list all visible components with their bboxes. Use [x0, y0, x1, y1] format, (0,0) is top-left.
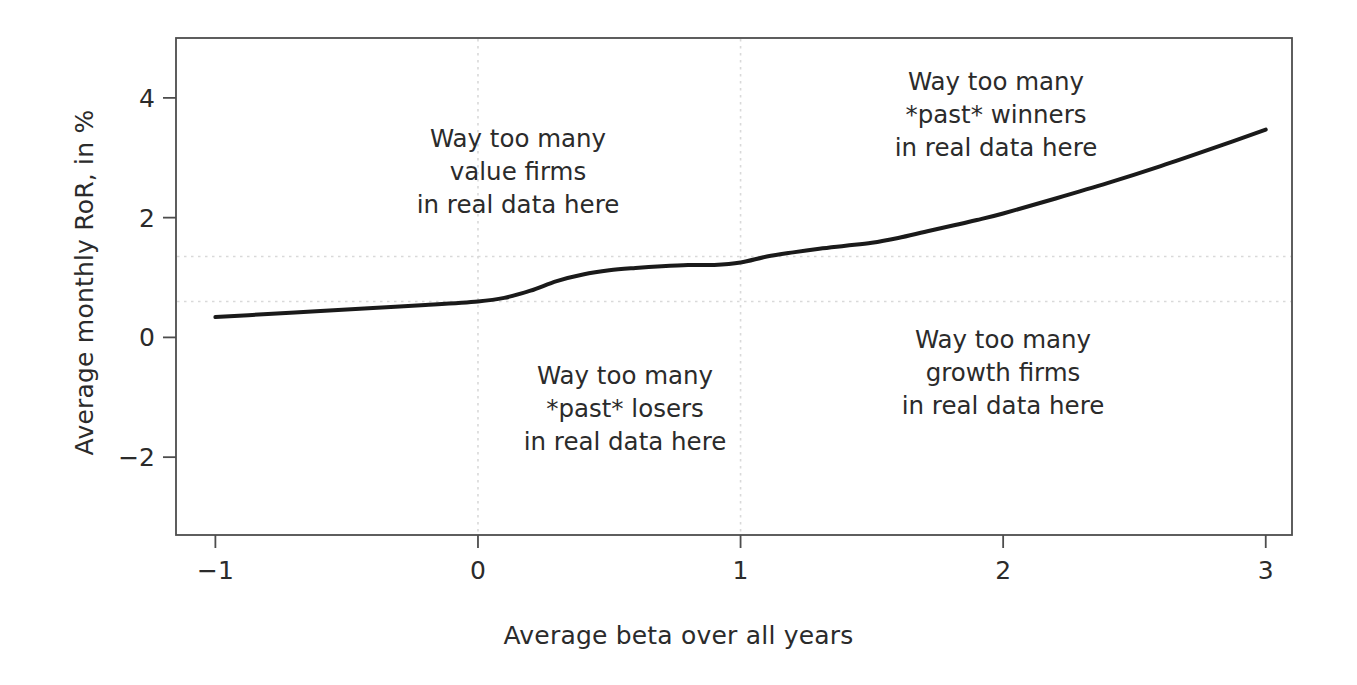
- y-tick-label: 4: [139, 83, 155, 112]
- annotation-value-firms: Way too many value firms in real data he…: [417, 122, 620, 221]
- y-axis-label: Average monthly RoR, in %: [70, 110, 99, 456]
- x-tick-label: −1: [197, 556, 234, 585]
- annotation-past-winners: Way too many *past* winners in real data…: [895, 65, 1098, 164]
- x-tick-label: 0: [470, 556, 486, 585]
- annotation-past-losers: Way too many *past* losers in real data …: [524, 359, 727, 458]
- annotation-line: Way too many: [524, 359, 727, 392]
- x-tick-label: 3: [1258, 556, 1274, 585]
- annotation-growth-firms: Way too many growth firms in real data h…: [902, 323, 1105, 422]
- annotation-line: Way too many: [895, 65, 1098, 98]
- x-tick-label: 1: [733, 556, 749, 585]
- annotation-line: in real data here: [524, 425, 727, 458]
- annotation-line: growth firms: [902, 356, 1105, 389]
- annotation-line: Way too many: [417, 122, 620, 155]
- y-tick-label: 0: [139, 323, 155, 352]
- annotation-line: *past* winners: [895, 98, 1098, 131]
- annotation-line: in real data here: [895, 131, 1098, 164]
- y-axis-label-wrapper: Average monthly RoR, in %: [70, 3, 99, 563]
- annotation-line: in real data here: [902, 389, 1105, 422]
- annotation-line: *past* losers: [524, 392, 727, 425]
- x-tick-label: 2: [995, 556, 1011, 585]
- annotation-line: in real data here: [417, 188, 620, 221]
- y-tick-label: −2: [118, 443, 155, 472]
- y-tick-label: 2: [139, 203, 155, 232]
- annotation-line: Way too many: [902, 323, 1105, 356]
- chart-figure: Average monthly RoR, in % Average beta o…: [0, 0, 1357, 685]
- plot-frame: [176, 38, 1292, 535]
- x-axis-label: Average beta over all years: [0, 621, 1357, 650]
- annotation-line: value firms: [417, 155, 620, 188]
